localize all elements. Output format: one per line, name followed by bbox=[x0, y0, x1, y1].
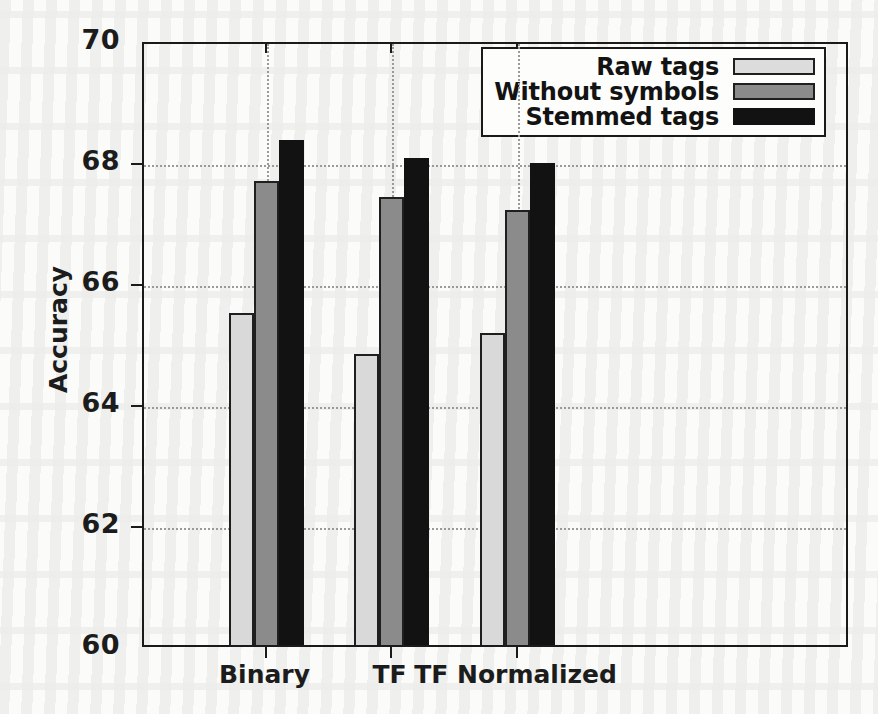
bar-tf-normalized-raw-tags bbox=[480, 333, 505, 647]
bar-tf-normalized-without-symbols bbox=[505, 210, 530, 647]
y-tick-mark-66 bbox=[131, 284, 142, 286]
bar-tf-raw-tags bbox=[354, 354, 379, 647]
bar-chart-figure: Accuracy 706866646260 BinaryTFTF Normali… bbox=[0, 0, 878, 714]
gridline-y-68 bbox=[144, 165, 846, 167]
x-tick-mark-bottom-tf-normalized bbox=[516, 647, 518, 658]
legend-label: Raw tags bbox=[596, 53, 719, 81]
legend-item-stemmed-tags: Stemmed tags bbox=[492, 104, 815, 129]
bar-binary-without-symbols bbox=[254, 181, 279, 647]
legend-label: Stemmed tags bbox=[525, 103, 719, 131]
y-tick-mark-62 bbox=[131, 526, 142, 528]
bar-tf-normalized-stemmed-tags bbox=[530, 163, 555, 647]
y-tick-mark-64 bbox=[131, 405, 142, 407]
legend-item-without-symbols: Without symbols bbox=[492, 79, 815, 104]
bar-binary-raw-tags bbox=[229, 313, 254, 647]
legend-item-raw-tags: Raw tags bbox=[492, 54, 815, 79]
y-tick-label-60: 60 bbox=[0, 629, 120, 660]
y-tick-label-62: 62 bbox=[0, 508, 120, 539]
y-tick-label-66: 66 bbox=[0, 266, 120, 297]
bar-tf-stemmed-tags bbox=[404, 158, 429, 647]
x-tick-mark-bottom-tf bbox=[390, 647, 392, 658]
y-tick-mark-68 bbox=[131, 163, 142, 165]
legend-swatch-without-symbols bbox=[733, 83, 815, 100]
y-tick-label-68: 68 bbox=[0, 145, 120, 176]
legend-swatch-stemmed-tags bbox=[733, 108, 815, 125]
chart-legend: Raw tagsWithout symbolsStemmed tags bbox=[481, 47, 826, 137]
y-tick-label-70: 70 bbox=[0, 24, 120, 55]
y-tick-label-64: 64 bbox=[0, 387, 120, 418]
bar-binary-stemmed-tags bbox=[279, 140, 304, 647]
legend-label: Without symbols bbox=[494, 78, 719, 106]
gridline-y-66 bbox=[144, 286, 846, 288]
x-tick-label-tf-normalized: TF Normalized bbox=[366, 660, 666, 689]
x-tick-mark-bottom-binary bbox=[265, 647, 267, 658]
bar-tf-without-symbols bbox=[379, 197, 404, 647]
legend-swatch-raw-tags bbox=[733, 58, 815, 75]
